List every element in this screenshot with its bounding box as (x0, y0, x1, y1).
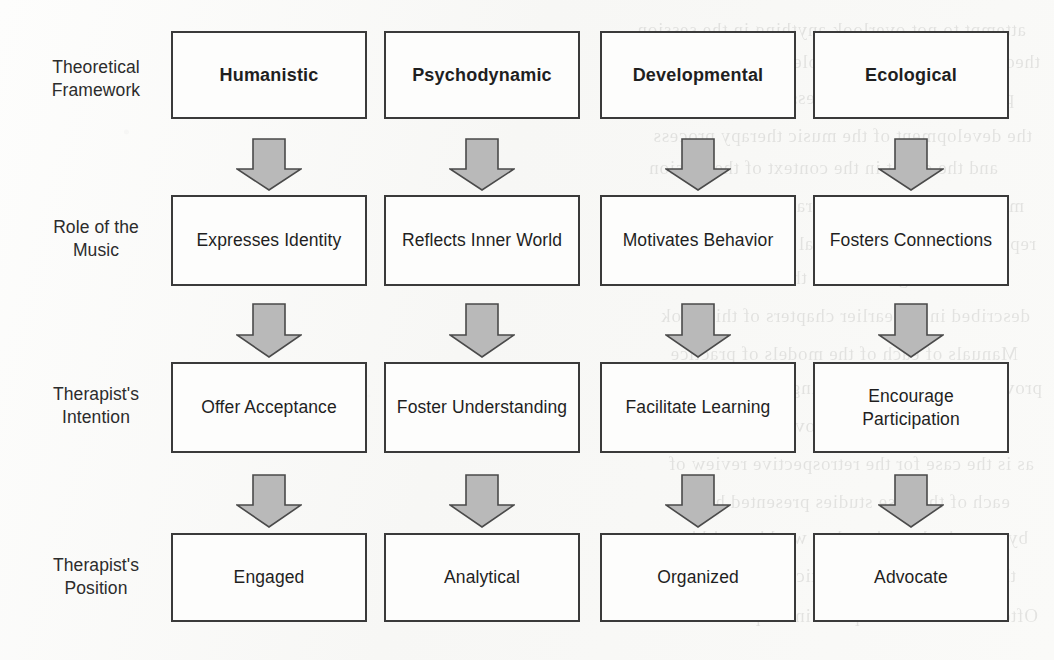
intention-label: Facilitate Learning (620, 396, 777, 419)
row-label-line1: Therapist's (30, 554, 162, 577)
row-label-line2: Position (30, 577, 162, 600)
role-box-ecological[interactable]: Fosters Connections (813, 195, 1009, 286)
down-arrow-icon (665, 474, 731, 528)
row-label-line2: Music (30, 239, 162, 262)
down-arrow-icon (665, 303, 731, 358)
role-box-humanistic[interactable]: Expresses Identity (171, 195, 367, 286)
row-label-line1: Therapist's (30, 383, 162, 406)
role-box-developmental[interactable]: Motivates Behavior (600, 195, 796, 286)
down-arrow-icon (449, 474, 515, 528)
row-label-line2: Intention (30, 406, 162, 429)
position-label: Analytical (438, 566, 526, 589)
row-label-role-of-the-music: Role of the Music (30, 216, 162, 262)
row-label-line1: Role of the (30, 216, 162, 239)
framework-box-humanistic[interactable]: Humanistic (171, 31, 367, 119)
role-label: Fosters Connections (824, 229, 998, 252)
framework-matrix: Theoretical Framework Role of the Music … (0, 0, 1054, 660)
role-label: Expresses Identity (191, 229, 348, 252)
position-label: Organized (651, 566, 745, 589)
down-arrow-icon (878, 474, 944, 528)
row-label-line2: Framework (30, 79, 162, 102)
down-arrow-icon (665, 138, 731, 191)
intention-box-humanistic[interactable]: Offer Acceptance (171, 362, 367, 453)
position-box-developmental[interactable]: Organized (600, 533, 796, 622)
framework-label: Psychodynamic (406, 64, 558, 87)
intention-box-psychodynamic[interactable]: Foster Understanding (384, 362, 580, 453)
down-arrow-icon (449, 138, 515, 191)
position-label: Engaged (228, 566, 311, 589)
down-arrow-icon (236, 138, 302, 191)
row-label-therapists-position: Therapist's Position (30, 554, 162, 600)
intention-label: Offer Acceptance (195, 396, 343, 419)
framework-box-psychodynamic[interactable]: Psychodynamic (384, 31, 580, 119)
down-arrow-icon (878, 138, 944, 191)
row-label-therapists-intention: Therapist's Intention (30, 383, 162, 429)
framework-box-ecological[interactable]: Ecological (813, 31, 1009, 119)
role-box-psychodynamic[interactable]: Reflects Inner World (384, 195, 580, 286)
down-arrow-icon (236, 303, 302, 358)
framework-box-developmental[interactable]: Developmental (600, 31, 796, 119)
figure-page: attempt to not overlook anything in the … (0, 0, 1054, 660)
position-box-ecological[interactable]: Advocate (813, 533, 1009, 622)
intention-box-ecological[interactable]: Encourage Participation (813, 362, 1009, 453)
row-label-line1: Theoretical (30, 56, 162, 79)
position-box-psychodynamic[interactable]: Analytical (384, 533, 580, 622)
position-box-humanistic[interactable]: Engaged (171, 533, 367, 622)
row-label-theoretical-framework: Theoretical Framework (30, 56, 162, 102)
intention-box-developmental[interactable]: Facilitate Learning (600, 362, 796, 453)
framework-label: Ecological (859, 64, 963, 87)
down-arrow-icon (449, 303, 515, 358)
intention-label: Foster Understanding (391, 396, 573, 419)
framework-label: Humanistic (213, 64, 324, 87)
down-arrow-icon (236, 474, 302, 528)
intention-label: Encourage Participation (815, 385, 1007, 431)
framework-label: Developmental (627, 64, 770, 87)
role-label: Reflects Inner World (396, 229, 568, 252)
position-label: Advocate (868, 566, 954, 589)
role-label: Motivates Behavior (617, 229, 780, 252)
down-arrow-icon (878, 303, 944, 358)
